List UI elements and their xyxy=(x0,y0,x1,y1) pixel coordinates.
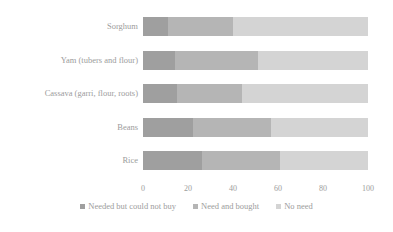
x-axis-tick-100: 100 xyxy=(362,183,374,194)
x-axis-tick-0: 0 xyxy=(141,183,145,194)
bar-segment-2 xyxy=(193,118,272,137)
bar-segment-1 xyxy=(143,118,193,137)
bar-segment-3 xyxy=(280,151,368,170)
bar-row xyxy=(143,118,368,137)
bar-segment-2 xyxy=(177,84,242,103)
legend-swatch-icon xyxy=(80,204,85,209)
value-axis: 020406080100 xyxy=(143,183,368,195)
bar-row xyxy=(143,51,368,70)
category-label-cassava: Cassava (garri, flour, roots) xyxy=(0,88,138,98)
bar-segment-3 xyxy=(271,118,368,137)
category-label-beans: Beans xyxy=(0,122,138,132)
bar-segment-1 xyxy=(143,51,175,70)
legend-label: Need and bought xyxy=(201,201,259,211)
bar-segment-3 xyxy=(242,84,368,103)
category-label-yam: Yam (tubers and flour) xyxy=(0,55,138,65)
legend-item-2[interactable]: Need and bought xyxy=(193,201,259,211)
bar-segment-1 xyxy=(143,84,177,103)
legend-swatch-icon xyxy=(276,204,281,209)
legend-label: Needed but could not buy xyxy=(88,201,176,211)
x-axis-tick-60: 60 xyxy=(274,183,282,194)
bar-segment-3 xyxy=(258,51,368,70)
chart-legend: Needed but could not buyNeed and boughtN… xyxy=(0,201,393,211)
x-axis-tick-40: 40 xyxy=(229,183,237,194)
bar-row xyxy=(143,84,368,103)
category-label-sorghum: Sorghum xyxy=(0,21,138,31)
bar-segment-1 xyxy=(143,17,168,36)
bar-row xyxy=(143,17,368,36)
bar-segment-2 xyxy=(175,51,258,70)
bar-row xyxy=(143,151,368,170)
bar-segment-2 xyxy=(202,151,281,170)
legend-item-1[interactable]: Needed but could not buy xyxy=(80,201,176,211)
legend-item-3[interactable]: No need xyxy=(276,201,313,211)
bar-segment-2 xyxy=(168,17,233,36)
bar-segment-1 xyxy=(143,151,202,170)
plot-area xyxy=(143,10,368,182)
x-axis-tick-20: 20 xyxy=(184,183,192,194)
x-axis-tick-80: 80 xyxy=(319,183,327,194)
category-label-rice: Rice xyxy=(0,155,138,165)
legend-label: No need xyxy=(284,201,313,211)
stacked-bar-chart: Sorghum Yam (tubers and flour) Cassava (… xyxy=(0,0,393,232)
legend-swatch-icon xyxy=(193,204,198,209)
bar-segment-3 xyxy=(233,17,368,36)
category-axis: Sorghum Yam (tubers and flour) Cassava (… xyxy=(0,10,138,182)
